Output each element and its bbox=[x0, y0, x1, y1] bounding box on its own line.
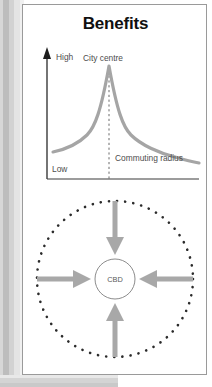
y-axis bbox=[43, 47, 51, 179]
commuting-radius-label: Commuting radius bbox=[115, 153, 183, 163]
benefits-line-chart: High Low City centre Commuting radius bbox=[23, 35, 208, 187]
arrow-from-east bbox=[139, 270, 193, 288]
cbd-commuter-flow-diagram: CBD bbox=[23, 187, 208, 372]
y-axis-high-label: High bbox=[56, 52, 74, 62]
page-backdrop-bottom-strip bbox=[0, 375, 118, 387]
arrow-from-west bbox=[37, 270, 91, 288]
y-axis-arrow-icon bbox=[43, 47, 51, 59]
arrow-from-north bbox=[106, 201, 124, 255]
figure-card: Benefits High Low City centre Commuting … bbox=[22, 4, 207, 375]
figure-root: Benefits High Low City centre Commuting … bbox=[0, 0, 212, 387]
benefits-curve bbox=[53, 66, 199, 163]
page-backdrop-left-strip bbox=[0, 0, 24, 387]
y-axis-low-label: Low bbox=[52, 164, 68, 174]
city-centre-label: City centre bbox=[83, 53, 123, 63]
page-title: Benefits bbox=[23, 14, 208, 34]
cbd-label: CBD bbox=[107, 275, 123, 284]
arrow-from-south bbox=[106, 303, 124, 357]
